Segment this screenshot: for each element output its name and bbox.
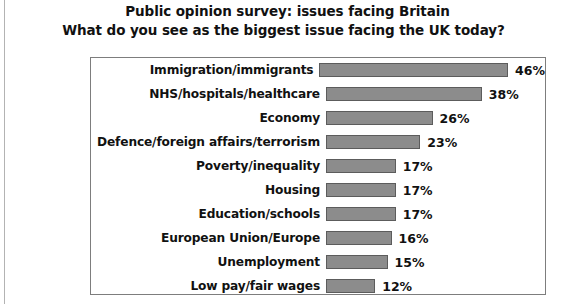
bar-category-label: Education/schools — [91, 207, 326, 221]
bar-category-label: Immigration/immigrants — [91, 63, 319, 77]
bar-category-label: Economy — [91, 111, 326, 125]
bar-value-label: 15% — [395, 255, 425, 270]
chart-title-block: Public opinion survey: issues facing Bri… — [0, 2, 561, 40]
bar-value-label: 26% — [440, 111, 470, 126]
bar-value-label: 16% — [399, 231, 429, 246]
bar-track: 17% — [326, 202, 545, 226]
bar-fill — [326, 159, 396, 173]
bar-fill — [326, 279, 375, 293]
bar-value-label: 46% — [515, 63, 545, 78]
bar-track: 26% — [326, 106, 545, 130]
chart-title-line-2: What do you see as the biggest issue fac… — [0, 21, 561, 40]
bar-fill — [326, 231, 392, 245]
bar-fill — [326, 183, 396, 197]
bar-row: NHS/hospitals/healthcare38% — [91, 82, 545, 106]
bar-row: European Union/Europe16% — [91, 226, 545, 250]
bar-track: 16% — [326, 226, 545, 250]
bar-value-label: 17% — [403, 207, 433, 222]
bar-value-label: 12% — [382, 279, 412, 294]
bar-category-label: Housing — [91, 183, 326, 197]
bar-row: Economy26% — [91, 106, 545, 130]
bar-value-label: 38% — [489, 87, 519, 102]
bar-row: Housing17% — [91, 178, 545, 202]
bar-value-label: 17% — [403, 159, 433, 174]
bar-fill — [326, 87, 482, 101]
bar-track: 15% — [326, 250, 545, 274]
bar-track: 17% — [326, 178, 545, 202]
bar-track: 38% — [326, 82, 545, 106]
bar-category-label: European Union/Europe — [91, 231, 326, 245]
bar-row-list: Immigration/immigrants46%NHS/hospitals/h… — [91, 58, 545, 294]
bar-row: Education/schools17% — [91, 202, 545, 226]
bar-track: 46% — [319, 58, 545, 82]
bar-category-label: Low pay/fair wages — [91, 279, 326, 293]
bar-category-label: Unemployment — [91, 255, 326, 269]
bar-track: 12% — [326, 274, 545, 298]
bar-value-label: 23% — [427, 135, 457, 150]
bar-fill — [319, 63, 508, 77]
bar-fill — [326, 255, 388, 269]
bar-fill — [326, 135, 420, 149]
chart-title-line-1: Public opinion survey: issues facing Bri… — [0, 2, 561, 21]
bar-track: 23% — [326, 130, 545, 154]
bar-category-label: Defence/foreign affairs/terrorism — [91, 135, 326, 149]
bar-fill — [326, 111, 433, 125]
bar-row: Poverty/inequality17% — [91, 154, 545, 178]
bar-row: Low pay/fair wages12% — [91, 274, 545, 298]
bar-category-label: Poverty/inequality — [91, 159, 326, 173]
bar-chart-figure: Public opinion survey: issues facing Bri… — [0, 0, 561, 304]
bar-row: Unemployment15% — [91, 250, 545, 274]
chart-plot-area: Immigration/immigrants46%NHS/hospitals/h… — [90, 57, 546, 295]
bar-category-label: NHS/hospitals/healthcare — [91, 87, 326, 101]
bar-value-label: 17% — [403, 183, 433, 198]
bar-track: 17% — [326, 154, 545, 178]
bar-row: Immigration/immigrants46% — [91, 58, 545, 82]
bar-fill — [326, 207, 396, 221]
bar-row: Defence/foreign affairs/terrorism23% — [91, 130, 545, 154]
